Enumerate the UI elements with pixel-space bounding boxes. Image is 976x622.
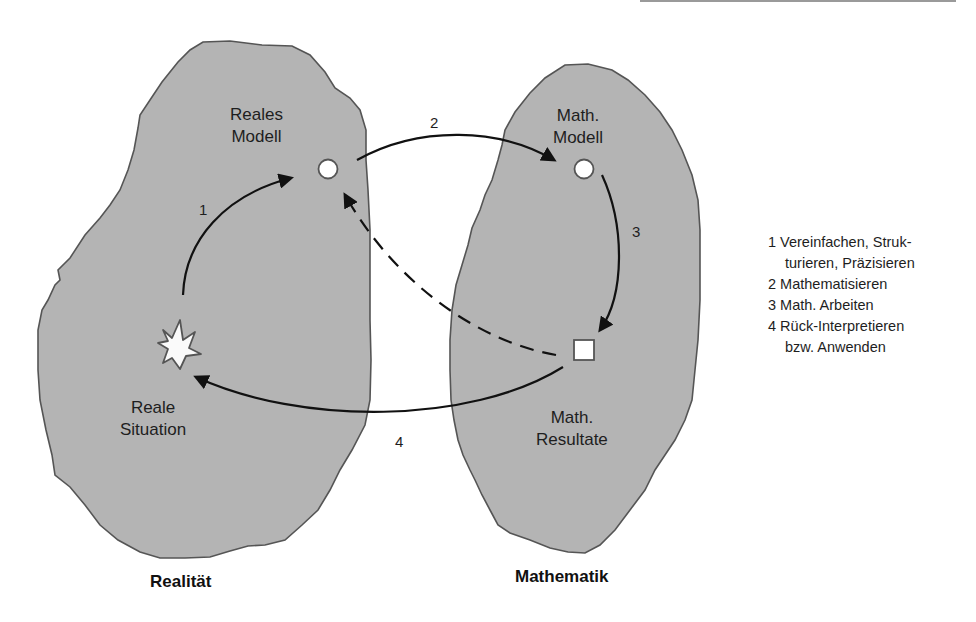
arrow-4-label: 4	[395, 433, 403, 450]
arrow-1-label: 1	[199, 201, 207, 218]
math-modell-line2: Modell	[553, 127, 603, 149]
legend-item-4-line2: bzw. Anwenden	[768, 337, 915, 358]
reales-modell-label: Reales Modell	[230, 104, 283, 148]
legend-item-4: 4 Rück-Interpretieren bzw. Anwenden	[768, 316, 915, 358]
region-mathematik-title: Mathematik	[515, 567, 609, 587]
math-modell-node	[575, 160, 594, 179]
reale-situation-line2: Situation	[120, 419, 186, 441]
legend-item-2-line1: 2 Mathematisieren	[768, 274, 915, 295]
math-modell-label: Math. Modell	[553, 105, 603, 149]
math-resultate-line1: Math.	[536, 407, 608, 429]
legend-item-1-line1: 1 Vereinfachen, Struk-	[768, 232, 915, 253]
math-resultate-node	[574, 340, 594, 360]
legend-item-1: 1 Vereinfachen, Struk- turieren, Präzisi…	[768, 232, 915, 274]
legend-item-3: 3 Math. Arbeiten	[768, 295, 915, 316]
reales-modell-line1: Reales	[230, 104, 283, 126]
arrow-2-label: 2	[430, 114, 438, 131]
legend-item-2: 2 Mathematisieren	[768, 274, 915, 295]
legend-item-4-line1: 4 Rück-Interpretieren	[768, 316, 915, 337]
reales-modell-node	[319, 160, 338, 179]
arrow-3-label: 3	[632, 223, 640, 240]
region-realitaet-title: Realität	[150, 572, 211, 592]
legend-item-3-line1: 3 Math. Arbeiten	[768, 295, 915, 316]
math-resultate-line2: Resultate	[536, 429, 608, 451]
math-resultate-label: Math. Resultate	[536, 407, 608, 451]
legend-item-1-line2: turieren, Präzisieren	[768, 253, 915, 274]
reale-situation-line1: Reale	[120, 397, 186, 419]
reale-situation-label: Reale Situation	[120, 397, 186, 441]
reales-modell-line2: Modell	[230, 126, 283, 148]
math-modell-line1: Math.	[553, 105, 603, 127]
legend: 1 Vereinfachen, Struk- turieren, Präzisi…	[768, 232, 915, 358]
region-realitaet	[38, 41, 371, 558]
